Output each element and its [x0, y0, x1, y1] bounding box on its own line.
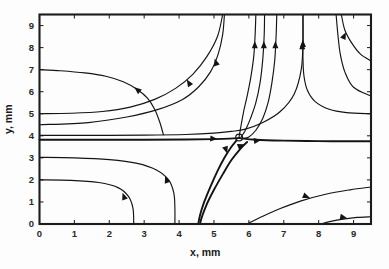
- y-tick-label: 1: [29, 196, 35, 207]
- flow-direction-arrow: [261, 41, 267, 48]
- x-tick-label: 2: [107, 228, 112, 239]
- plot-frame: [40, 15, 372, 225]
- streamline-path: [40, 15, 223, 114]
- flow-direction-arrow: [300, 40, 306, 47]
- y-axis-title: y, mm: [2, 104, 14, 134]
- flow-direction-arrow: [210, 135, 218, 142]
- x-axis-tick-labels: 0123456789: [37, 228, 356, 239]
- streamline-path: [243, 15, 277, 139]
- y-tick-label: 6: [29, 86, 34, 97]
- streamline-path: [336, 15, 371, 97]
- y-tick-label: 9: [29, 20, 34, 31]
- flow-direction-arrow: [340, 214, 348, 221]
- streamline-path: [40, 138, 240, 140]
- x-tick-label: 8: [316, 228, 321, 239]
- streamline-paths: [40, 15, 372, 225]
- y-axis-ticks: [40, 26, 372, 224]
- y-axis-tick-labels: 0123456789: [29, 20, 35, 229]
- streamline-path: [40, 180, 134, 224]
- streamline-path: [200, 142, 247, 224]
- x-tick-label: 5: [211, 228, 217, 239]
- streamline-path: [40, 70, 164, 135]
- y-tick-label: 3: [29, 152, 34, 163]
- streamline-path: [341, 15, 371, 61]
- streamline-path: [241, 15, 264, 137]
- x-tick-label: 3: [142, 228, 147, 239]
- streamline-figure: 0123456789 0123456789 x, mm y, mm: [0, 0, 389, 269]
- streamline-path: [40, 157, 175, 224]
- flow-direction-arrow: [272, 41, 278, 48]
- y-tick-label: 5: [29, 108, 35, 119]
- y-tick-label: 8: [29, 42, 34, 53]
- streamline-path: [239, 15, 256, 137]
- flow-direction-arrow: [184, 78, 193, 87]
- x-tick-label: 9: [351, 228, 356, 239]
- x-tick-label: 1: [72, 228, 78, 239]
- flow-direction-arrow: [120, 192, 128, 201]
- x-axis-title: x, mm: [190, 246, 220, 258]
- y-tick-label: 4: [29, 130, 35, 141]
- flow-direction-arrow: [132, 85, 141, 94]
- y-tick-label: 2: [29, 174, 34, 185]
- x-tick-label: 0: [37, 228, 42, 239]
- streamline-direction-arrows: [120, 31, 349, 221]
- flow-direction-arrow: [212, 58, 220, 67]
- x-tick-label: 7: [281, 228, 286, 239]
- flow-direction-arrow: [162, 175, 170, 184]
- x-tick-label: 4: [176, 228, 182, 239]
- y-tick-label: 7: [29, 64, 34, 75]
- flow-direction-arrow: [252, 41, 258, 48]
- plot-canvas: 0123456789 0123456789 x, mm y, mm: [0, 0, 389, 269]
- x-axis-ticks: [40, 15, 354, 225]
- y-tick-label: 0: [29, 218, 34, 229]
- x-tick-label: 6: [246, 228, 251, 239]
